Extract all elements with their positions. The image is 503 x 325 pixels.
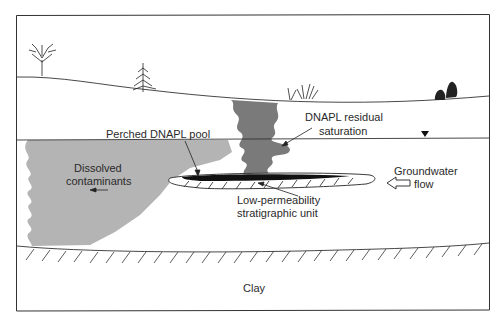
clay-hatching <box>26 244 482 263</box>
groundwater-flow-arrow-icon <box>387 177 410 189</box>
residual-saturation-label-line2: saturation <box>319 125 367 137</box>
ground-surface <box>17 77 489 102</box>
residual-saturation-label-line1: DNAPL residual <box>305 111 383 123</box>
clay-label: Clay <box>243 282 266 294</box>
water-table-triangle-icon <box>421 131 429 137</box>
perched-pool-label: Perched DNAPL pool <box>106 128 210 140</box>
groundwater-label-line1: Groundwater <box>394 165 458 177</box>
conifer-tree-icon <box>133 63 156 92</box>
dissolved-plume <box>25 140 232 246</box>
deciduous-tree-icon <box>29 44 56 76</box>
low-permeability-label-line1: Low-permeability <box>237 194 321 206</box>
groundwater-label-line2: flow <box>414 178 434 190</box>
dissolved-contaminants-label-line1: Dissolved <box>74 162 122 174</box>
low-permeability-label-line2: stratigraphic unit <box>237 207 318 219</box>
dissolved-contaminants-label-line2: contaminants <box>66 175 132 187</box>
dnapl-cross-section-diagram: Perched DNAPL pool DNAPL residual satura… <box>0 0 503 325</box>
grass-icon <box>288 84 318 100</box>
shrub-icon <box>435 82 457 100</box>
